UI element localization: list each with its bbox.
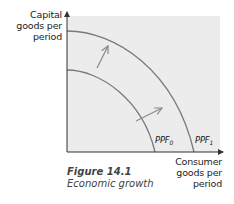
ppf1-label-name: PPF (195, 135, 210, 145)
ppf1-label-subscript: 1 (210, 139, 214, 146)
ppf1-curve (67, 31, 194, 152)
x-axis-label: Consumer goods per period (152, 156, 222, 189)
ppf0-curve (67, 70, 155, 152)
figure-title: Economic growth (67, 178, 154, 190)
growth-arrow-upper (97, 46, 108, 68)
ppf0-label-name: PPF (155, 135, 170, 145)
ppf1-label: PPF1 (195, 135, 213, 146)
x-axis-label-line: goods per (152, 167, 222, 178)
figure-number: Figure 14.1 (67, 166, 154, 178)
ppf0-label: PPF0 (155, 135, 173, 146)
y-axis-label-line: goods per (2, 20, 62, 31)
ppf0-label-subscript: 0 (170, 139, 174, 146)
x-axis-label-line: period (152, 178, 222, 189)
x-axis-label-line: Consumer (152, 156, 222, 167)
y-axis-label: Capital goods per period (2, 9, 62, 42)
y-axis-label-line: period (2, 31, 62, 42)
y-axis-label-line: Capital (2, 9, 62, 20)
economic-growth-figure: Capital goods per period Consumer goods … (0, 0, 234, 204)
figure-caption: Figure 14.1 Economic growth (67, 166, 154, 190)
